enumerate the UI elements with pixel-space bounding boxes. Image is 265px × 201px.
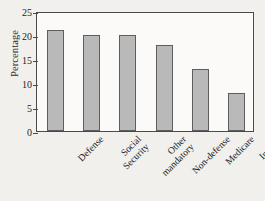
bar [119,35,136,131]
bar-slot [83,13,100,131]
bar [228,93,245,131]
x-axis-label: Interest [257,134,265,162]
y-axis-tick-labels: 0510152025 [14,12,32,132]
bar [47,30,64,131]
bar [156,45,173,131]
x-axis-label: Othermandatory [152,134,196,178]
y-tick-label: 10 [22,79,32,90]
x-axis-label: SocialSecurity [113,134,151,172]
x-axis-label: Defense [76,134,106,164]
bar-chart: Percentage 0510152025 DefenseSocialSecur… [0,0,265,201]
y-tick-label: 15 [22,55,32,66]
x-axis-label-line: Interest [257,134,265,162]
bar [83,35,100,131]
y-tick-label: 0 [27,127,32,138]
y-tick-label: 25 [22,7,32,18]
x-axis-label-line: Defense [76,134,106,164]
bar-slot [228,13,245,131]
x-axis-category-labels: DefenseSocialSecurityOthermandatoryNon-d… [36,134,254,201]
bar [192,69,209,131]
plot-area [36,12,254,132]
bar-slot [119,13,136,131]
bars-group [37,13,253,131]
y-tick-label: 20 [22,31,32,42]
bar-slot [47,13,64,131]
y-tick-label: 5 [27,103,32,114]
bar-slot [192,13,209,131]
bar-slot [156,13,173,131]
